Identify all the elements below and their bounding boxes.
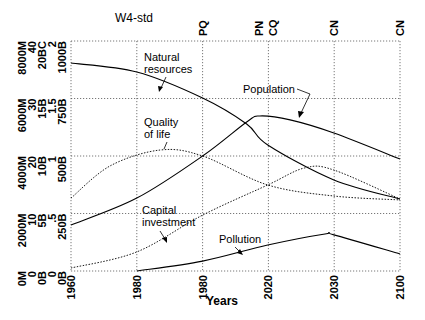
series-quality-of-life xyxy=(71,149,400,199)
annotation-population: Population xyxy=(243,83,310,118)
svg-text:Population: Population xyxy=(243,83,295,95)
annotation-natural-resources: Natural resources xyxy=(144,51,193,92)
world-model-chart: 0M00B00B2000M105B.5250B4000M2010B1500B60… xyxy=(0,0,425,320)
top-marker-label: CN xyxy=(394,20,406,36)
svg-text:resources: resources xyxy=(144,63,193,75)
svg-text:investment: investment xyxy=(142,216,195,228)
x-tick-label: 2100 xyxy=(394,275,406,299)
svg-text:Quality: Quality xyxy=(144,116,179,128)
x-tick-label: 1980 xyxy=(131,275,143,299)
annotation-pollution: Pollution xyxy=(219,233,261,255)
y-tick-label: 750B xyxy=(56,98,68,124)
series-population xyxy=(71,116,400,225)
svg-text:Pollution: Pollution xyxy=(219,233,261,245)
x-axis-label: Years xyxy=(206,294,238,308)
top-markers: PQPNCQCNCN xyxy=(197,19,406,36)
svg-text:Natural: Natural xyxy=(144,51,179,63)
svg-text:of life: of life xyxy=(144,128,170,140)
y-tick-label: 1000B xyxy=(56,41,68,73)
top-marker-label: CQ xyxy=(267,19,279,36)
top-marker-label: PN xyxy=(253,21,265,36)
annotation-capital-investment: Capital investment xyxy=(142,204,195,243)
x-tick-label: 2020 xyxy=(262,275,274,299)
svg-text:Capital: Capital xyxy=(142,204,176,216)
x-tick-label: 1960 xyxy=(65,275,77,299)
y-tick-label: 500B xyxy=(56,156,68,182)
top-marker-label: PQ xyxy=(197,20,209,36)
y-tick-label: 250B xyxy=(56,213,68,239)
annotation-quality-of-life: Quality of life xyxy=(144,116,179,149)
x-tick-label: 2030 xyxy=(328,275,340,299)
y-axis-tick-labels: 0M00B00B2000M105B.5250B4000M2010B1500B60… xyxy=(16,41,68,286)
top-marker-label: CN xyxy=(328,20,340,36)
chart-title: W4-std xyxy=(115,11,153,25)
